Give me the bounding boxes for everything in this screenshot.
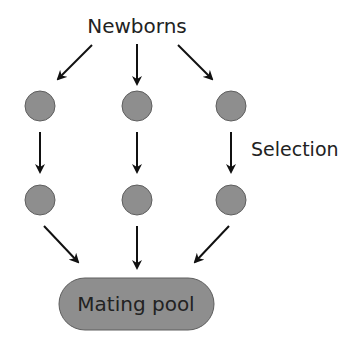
arrows-selection <box>40 132 231 172</box>
arrow-newborns-to-node-1 <box>58 45 92 79</box>
node-r2-c1 <box>25 185 55 215</box>
selection-diagram: Newborns Selection Mating pool <box>0 0 348 350</box>
node-r1-c2 <box>122 91 152 121</box>
row-1-nodes <box>25 91 246 121</box>
arrows-newborns <box>58 44 212 84</box>
arrow-to-pool-1 <box>44 226 78 262</box>
arrow-newborns-to-node-3 <box>178 45 212 79</box>
node-r2-c3 <box>216 185 246 215</box>
node-r1-c3 <box>216 91 246 121</box>
newborns-label: Newborns <box>87 14 187 38</box>
arrow-to-pool-3 <box>195 226 229 262</box>
node-r2-c2 <box>122 185 152 215</box>
row-2-nodes <box>25 185 246 215</box>
selection-label: Selection <box>251 138 339 160</box>
node-r1-c1 <box>25 91 55 121</box>
arrows-to-pool <box>44 226 229 268</box>
mating-pool-label: Mating pool <box>77 292 194 316</box>
